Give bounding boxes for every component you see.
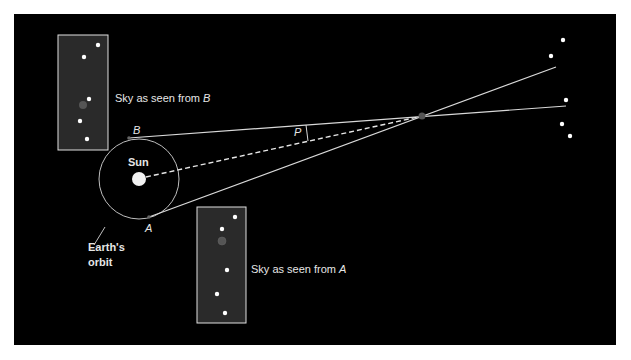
nearby-star-in-sky-b xyxy=(79,101,87,109)
earth-position-b xyxy=(127,136,131,140)
sun-label: Sun xyxy=(128,156,149,168)
sight-line-b xyxy=(129,106,566,138)
sky-from-b-label: Sky as seen from B xyxy=(115,92,210,104)
sight-line-a xyxy=(149,67,556,217)
earth-orbit-label: Earth's orbit xyxy=(88,240,125,270)
sky-from-b-text: Sky as seen from xyxy=(115,92,203,104)
distant-stars xyxy=(549,38,572,138)
sky-from-a-point: A xyxy=(339,263,346,275)
sun-icon xyxy=(132,172,146,186)
sky-from-a-label: Sky as seen from A xyxy=(251,263,346,275)
sky-from-a-text: Sky as seen from xyxy=(251,263,339,275)
sky-box-a xyxy=(197,207,246,323)
earth-orbit-label-line2: orbit xyxy=(88,255,125,270)
nearby-star-in-sky-a xyxy=(218,237,226,245)
parallax-angle-arc xyxy=(306,125,308,141)
point-a-label: A xyxy=(145,222,152,234)
earth-position-a xyxy=(147,215,151,219)
earth-orbit-label-line1: Earth's xyxy=(88,240,125,255)
parallax-angle-label: P xyxy=(294,126,301,138)
point-b-label: B xyxy=(133,124,140,136)
sky-from-b-point: B xyxy=(203,92,210,104)
sky-box-b xyxy=(58,35,108,150)
parallax-diagram xyxy=(0,0,631,360)
nearby-star xyxy=(419,113,426,120)
